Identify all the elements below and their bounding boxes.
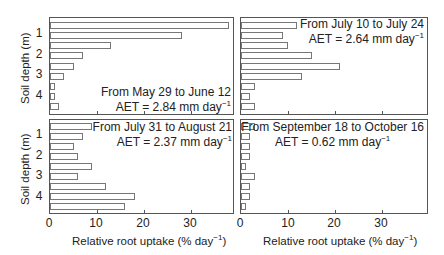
panel-annotation: From July 31 to August 21 AET = 2.37 mm … [93, 120, 232, 150]
aet-label: AET = 0.62 mm day [275, 135, 381, 149]
x-tick-label: 10 [276, 216, 300, 230]
period-label: From July 10 to July 24 [300, 17, 424, 31]
superscript: −1 [381, 134, 390, 143]
bar [241, 153, 250, 160]
superscript: −1 [415, 31, 424, 40]
x-tick-label: 20 [131, 216, 155, 230]
x-tick [288, 210, 289, 213]
x-tick [335, 111, 336, 114]
y-tick-label: 4 [33, 88, 45, 102]
bar [241, 52, 312, 59]
bar [50, 163, 92, 170]
bar [241, 103, 255, 110]
bar [50, 73, 64, 80]
bar [241, 63, 340, 70]
bar [50, 123, 92, 130]
x-tick-label: 0 [228, 216, 252, 230]
bar [241, 22, 297, 29]
bar [50, 22, 229, 29]
bar [50, 63, 74, 70]
y-tick-label: 1 [33, 26, 45, 40]
bar [241, 183, 250, 190]
x-axis-title-close: ) [222, 235, 226, 247]
bar [50, 93, 55, 100]
period-label: From September 18 to October 16 [241, 120, 424, 134]
x-tick [97, 210, 98, 213]
x-tick [382, 210, 383, 213]
x-tick-label: 30 [369, 216, 393, 230]
bar [241, 173, 255, 180]
x-tick-label: 30 [178, 216, 202, 230]
x-tick [144, 210, 145, 213]
period-label: From July 31 to August 21 [93, 120, 232, 134]
x-tick [382, 111, 383, 114]
x-tick [97, 111, 98, 114]
bar [50, 32, 182, 39]
x-tick [335, 210, 336, 213]
x-axis-title-left: Relative root uptake (% day−1) [72, 235, 226, 247]
bar [241, 32, 283, 39]
bar [241, 42, 288, 49]
bar [50, 42, 111, 49]
y-tick-label: 3 [33, 168, 45, 182]
x-axis-title-right: Relative root uptake (% day−1) [263, 235, 417, 247]
panel-annotation: From September 18 to October 16 AET = 0.… [241, 120, 424, 150]
bar [50, 203, 125, 210]
x-axis-title-text: Relative root uptake (% day [72, 235, 213, 247]
period-label: From May 29 to June 12 [101, 85, 231, 99]
x-tick-label: 0 [37, 216, 61, 230]
aet-label: AET = 2.64 mm day [309, 32, 415, 46]
y-tick-label: 2 [33, 47, 45, 61]
bar [241, 93, 250, 100]
x-axis-title-text: Relative root uptake (% day [263, 235, 404, 247]
panel-annotation: From July 10 to July 24 AET = 2.64 mm da… [300, 17, 424, 47]
bar [241, 163, 246, 170]
superscript: −1 [223, 134, 232, 143]
x-tick-label: 10 [84, 216, 108, 230]
y-tick-label: 1 [33, 127, 45, 141]
bar [50, 103, 59, 110]
bar [50, 83, 55, 90]
bar [50, 173, 78, 180]
x-tick-label: 20 [322, 216, 346, 230]
y-tick-label: 3 [33, 67, 45, 81]
y-axis-title-top: Soil depth (m) [19, 32, 31, 104]
bar [241, 203, 246, 210]
aet-label: AET = 2.84 mm day [116, 100, 222, 114]
x-tick [288, 111, 289, 114]
bar [241, 83, 255, 90]
bar [241, 193, 250, 200]
aet-label: AET = 2.37 mm day [117, 135, 223, 149]
y-tick-label: 4 [33, 189, 45, 203]
superscript: −1 [222, 99, 231, 108]
bar [50, 133, 83, 140]
bar [50, 143, 74, 150]
y-tick-label: 2 [33, 148, 45, 162]
panel-annotation: From May 29 to June 12 AET = 2.84 mm day… [101, 85, 231, 115]
bar [50, 153, 78, 160]
bar [50, 193, 135, 200]
bar [50, 183, 106, 190]
x-tick [191, 210, 192, 213]
bar [50, 52, 83, 59]
x-axis-title-close: ) [413, 235, 417, 247]
bar [241, 73, 302, 80]
y-axis-title-bottom: Soil depth (m) [19, 133, 31, 205]
